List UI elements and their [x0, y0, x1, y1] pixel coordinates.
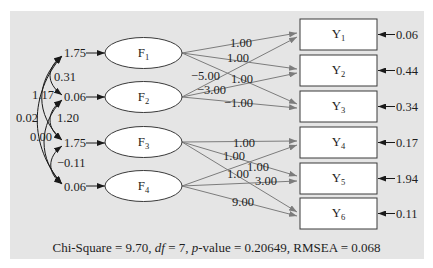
factor-node-f3: F3	[105, 127, 182, 158]
residual-value: 1.94	[396, 172, 419, 186]
factor-node-f2: F2	[105, 82, 182, 113]
loading-value: 1.00	[227, 51, 249, 65]
factor-node-f1: F1	[105, 38, 182, 69]
loading-value: 1.00	[230, 36, 252, 50]
covariance-value: 1.17	[32, 88, 54, 102]
covariance-value: 1.20	[57, 111, 79, 125]
fit-statistics: Chi-Square = 9.70, df = 7, p-value = 0.2…	[53, 240, 381, 255]
loading-value: −1.00	[224, 96, 253, 110]
loading-value: 3.00	[255, 174, 277, 188]
residual-value: 0.44	[396, 64, 419, 78]
factor-variance: 0.06	[64, 180, 86, 194]
residual-value: 0.06	[396, 28, 418, 42]
factor-variance: 1.75	[64, 46, 86, 60]
loading-value: 1.00	[247, 160, 269, 174]
residual-value: 0.34	[396, 100, 419, 114]
path-diagram: 0.31 1.17 0.02 1.20 0.00 −0.11 1.75 0.06…	[0, 0, 433, 268]
covariance-value: 0.31	[54, 70, 76, 84]
loading-value: 1.00	[231, 72, 253, 86]
covariance-value: 0.00	[30, 130, 52, 144]
loading-value: −5.00	[191, 69, 220, 83]
loading-value: 1.00	[233, 136, 255, 150]
factor-node-f4: F4	[105, 171, 182, 202]
loading-value: −3.00	[197, 83, 226, 97]
covariance-value: 0.02	[16, 111, 38, 125]
loading-value: 9.00	[232, 195, 254, 209]
loading-value: 1.00	[227, 167, 249, 181]
residual-value: 0.17	[396, 136, 418, 150]
loading-value: 1.00	[223, 149, 245, 163]
covariance-value: −0.11	[57, 156, 85, 170]
residual-value: 0.11	[396, 207, 417, 221]
factor-variance: 0.06	[64, 90, 86, 104]
factor-variance: 1.75	[64, 136, 86, 150]
